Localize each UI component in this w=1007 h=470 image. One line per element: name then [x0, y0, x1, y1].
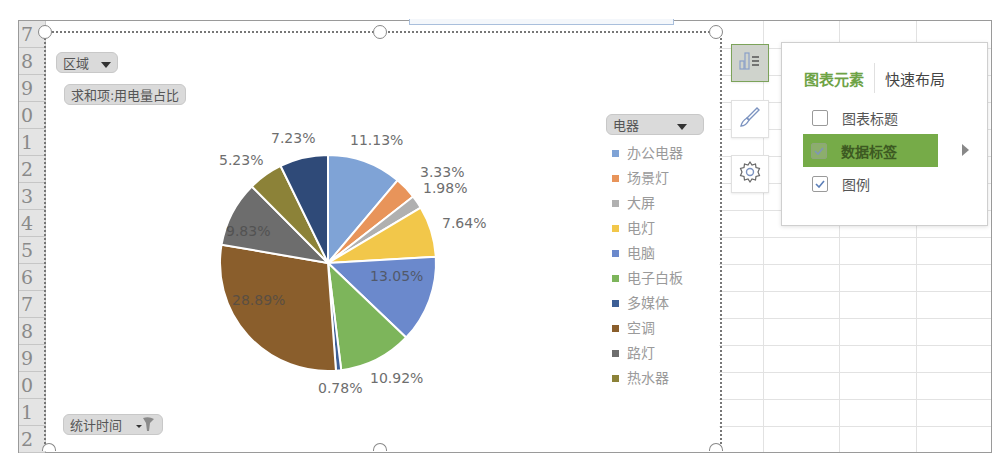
legend-item[interactable]: 办公电器 [612, 141, 683, 166]
chart-styles-button[interactable] [731, 100, 769, 138]
filter-funnel-icon [134, 416, 156, 438]
grid-line [719, 264, 991, 265]
data-label: 11.13% [350, 132, 403, 148]
legend-swatch-icon [612, 275, 619, 282]
tab-chart-elements[interactable]: 图表元素 [804, 68, 864, 89]
legend-label: 电脑 [627, 245, 655, 261]
resize-handle-top-left[interactable] [38, 25, 52, 39]
legend-item[interactable]: 大屏 [612, 191, 683, 216]
data-label: 1.98% [423, 180, 467, 196]
legend-label: 电灯 [627, 220, 655, 236]
resize-handle-top-center[interactable] [373, 25, 387, 39]
grid-line [719, 237, 991, 238]
submenu-arrow-icon[interactable] [962, 144, 969, 156]
resize-handle-bottom-center[interactable] [373, 443, 387, 451]
row-header[interactable]: 1 [19, 399, 45, 426]
chart-elements-button[interactable] [731, 44, 769, 82]
grid-line [719, 399, 991, 400]
row-headers: 7890123456789012 [19, 21, 46, 452]
grid-line [763, 21, 764, 452]
legend-field-button[interactable]: 电器 [606, 114, 704, 135]
chart-filters-button[interactable] [731, 155, 769, 193]
grid-line [719, 345, 991, 346]
legend-swatch-icon [612, 250, 619, 257]
data-label: 7.23% [271, 130, 315, 146]
popup-tabs: 图表元素 快速布局 [804, 63, 945, 93]
legend-item[interactable]: 场景灯 [612, 166, 683, 191]
legend-checkbox[interactable] [812, 176, 828, 192]
legend-swatch-icon [612, 200, 619, 207]
legend-label: 办公电器 [627, 145, 683, 161]
brush-icon [738, 105, 762, 133]
row-header[interactable]: 9 [19, 75, 45, 102]
row-header[interactable]: 7 [19, 291, 45, 318]
legend-label: 大屏 [627, 195, 655, 211]
filter-field-label: 区域 [63, 56, 89, 71]
grid-line [719, 426, 991, 427]
row-header[interactable]: 0 [19, 372, 45, 399]
legend-label: 多媒体 [627, 295, 669, 311]
row-header[interactable]: 1 [19, 129, 45, 156]
row-header[interactable]: 5 [19, 237, 45, 264]
legend-field-label: 电器 [613, 118, 639, 133]
legend-swatch-icon [612, 300, 619, 307]
legend-label: 路灯 [627, 345, 655, 361]
data-label: 9.83% [226, 223, 270, 239]
value-field-button[interactable]: 求和项:用电量占比 [64, 84, 186, 105]
row-header[interactable]: 2 [19, 156, 45, 183]
selection-strip [409, 19, 674, 25]
data-label: 0.78% [318, 380, 362, 396]
legend-label: 电子白板 [627, 270, 683, 286]
data-labels-label: 数据标签 [841, 141, 897, 161]
chart-title-label: 图表标题 [842, 108, 898, 128]
chart-elements-popup: 图表元素 快速布局 图表标题 数据标签 图例 [781, 42, 988, 226]
gear-icon [738, 160, 762, 188]
element-chart-title[interactable]: 图表标题 [804, 101, 959, 134]
row-header[interactable]: 3 [19, 183, 45, 210]
legend-item[interactable]: 电脑 [612, 241, 683, 266]
legend-item[interactable]: 电灯 [612, 216, 683, 241]
resize-handle-bottom-right[interactable] [709, 443, 723, 451]
data-labels-checkbox[interactable] [811, 143, 827, 159]
row-header[interactable]: 8 [19, 318, 45, 345]
grid-line [719, 318, 991, 319]
legend-item[interactable]: 路灯 [612, 341, 683, 366]
value-field-label: 求和项:用电量占比 [71, 88, 179, 103]
legend-swatch-icon [612, 225, 619, 232]
legend-label: 热水器 [627, 370, 669, 386]
data-label: 5.23% [219, 152, 263, 168]
dropdown-caret-icon [677, 124, 687, 130]
legend-swatch-icon [612, 325, 619, 332]
row-header[interactable]: 4 [19, 210, 45, 237]
legend-swatch-icon [612, 350, 619, 357]
legend-item[interactable]: 空调 [612, 316, 683, 341]
element-data-labels[interactable]: 数据标签 [803, 134, 938, 167]
legend-label: 图例 [842, 174, 870, 194]
row-header[interactable]: 0 [19, 102, 45, 129]
legend-label: 场景灯 [627, 170, 669, 186]
element-legend[interactable]: 图例 [804, 167, 959, 200]
chart-title-checkbox[interactable] [812, 110, 828, 126]
legend-swatch-icon [612, 375, 619, 382]
legend-swatch-icon [612, 150, 619, 157]
chart-legend[interactable]: 办公电器场景灯大屏电灯电脑电子白板多媒体空调路灯热水器 [612, 141, 683, 391]
row-header[interactable]: 6 [19, 264, 45, 291]
chart-elements-icon [738, 50, 762, 76]
tab-quick-layout[interactable]: 快速布局 [885, 68, 945, 89]
row-header[interactable]: 8 [19, 48, 45, 75]
resize-handle-top-right[interactable] [709, 25, 723, 39]
tab-divider [874, 63, 875, 93]
axis-field-button[interactable]: 统计时间 [63, 414, 163, 435]
legend-item[interactable]: 热水器 [612, 366, 683, 391]
legend-item[interactable]: 电子白板 [612, 266, 683, 291]
row-header[interactable]: 9 [19, 345, 45, 372]
data-label: 13.05% [370, 268, 423, 284]
resize-handle-bottom-left[interactable] [42, 443, 56, 451]
filter-field-button[interactable]: 区域 [56, 52, 118, 73]
axis-field-label: 统计时间 [70, 418, 122, 433]
data-label: 28.89% [232, 292, 285, 308]
grid-line [719, 372, 991, 373]
dropdown-caret-icon [101, 62, 111, 68]
legend-item[interactable]: 多媒体 [612, 291, 683, 316]
data-label: 3.33% [420, 164, 464, 180]
